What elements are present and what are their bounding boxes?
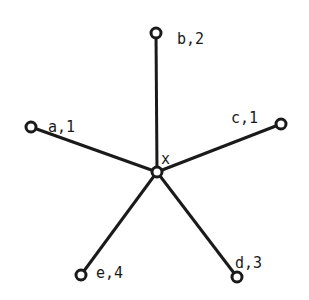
node-label-x: x xyxy=(161,150,170,168)
star-graph: b,2a,1c,1e,4d,3x xyxy=(0,0,309,300)
node-d xyxy=(232,272,242,282)
node-e xyxy=(76,270,86,280)
node-a xyxy=(26,122,36,132)
node-b xyxy=(151,28,161,38)
edge-x-c xyxy=(157,124,281,172)
edge-x-d xyxy=(157,172,237,277)
node-c xyxy=(276,119,286,129)
node-label-b: b,2 xyxy=(177,30,204,48)
node-label-e: e,4 xyxy=(96,264,123,282)
node-x xyxy=(152,167,162,177)
edge-x-b xyxy=(156,33,157,172)
node-label-a: a,1 xyxy=(48,118,75,136)
node-label-d: d,3 xyxy=(235,254,262,272)
node-label-c: c,1 xyxy=(231,109,258,127)
edge-x-e xyxy=(81,172,157,275)
